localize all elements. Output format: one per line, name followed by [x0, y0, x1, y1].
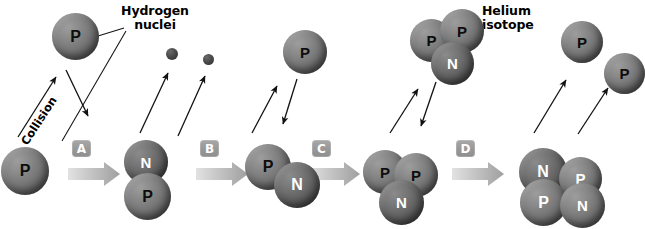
- nucleon-proton-deuterium-stage-1: P: [124, 173, 171, 220]
- nucleon-proton-emitted-upper: P: [561, 21, 603, 63]
- particle-emission-arrows: [140, 73, 205, 136]
- nucleon-proton-emitted-lower: P: [604, 53, 645, 94]
- emitted-particle-1: [166, 48, 178, 60]
- nucleon-neutron-deuterium-stage-2: N: [274, 162, 320, 208]
- helium-three-motion-arrows: [390, 82, 436, 133]
- nucleon-proton-hydrogen-stage-2: P: [283, 30, 327, 74]
- nucleon-neutron-helium-3-bottom: N: [379, 180, 424, 225]
- emitted-proton-arrows: [534, 80, 608, 134]
- process-arrow-b: [196, 162, 248, 186]
- process-arrow-a: [68, 162, 120, 186]
- helium-isotope-label: Helium isotope: [482, 4, 562, 32]
- step-badge-c[interactable]: C: [312, 140, 331, 157]
- nucleon-proton-hydrogen-top-left: P: [52, 13, 99, 60]
- hydrogen-nuclei-label: Hydrogen nuclei: [115, 4, 195, 32]
- step-badge-b[interactable]: B: [200, 140, 219, 157]
- step-badge-a[interactable]: A: [72, 140, 91, 157]
- nucleon-neutron-helium-4-bottom-right: N: [560, 183, 605, 228]
- process-arrow-d: [452, 162, 504, 186]
- step-badge-d[interactable]: D: [456, 140, 475, 157]
- emitted-particle-2: [203, 54, 214, 65]
- stage-two-motion-arrows: [252, 79, 297, 133]
- nucleon-proton-hydrogen-bottom-left: P: [1, 147, 49, 195]
- nucleon-neutron-helium-3-top: N: [431, 42, 474, 85]
